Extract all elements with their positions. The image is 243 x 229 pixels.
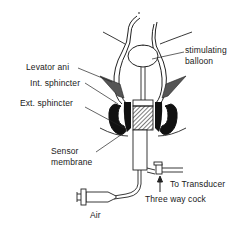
label-air: Air (90, 211, 101, 220)
anorectal-manometry-diagram (0, 0, 243, 229)
label-stimulating-balloon-line2: balloon (185, 57, 213, 66)
label-sensor-membrane-line2: membrane (51, 158, 92, 167)
pelvic-floor-lines (103, 32, 192, 44)
diagram-canvas: stimulating balloon Levator ani Int. sph… (0, 0, 243, 229)
label-to-transducer: To Transducer (170, 180, 225, 189)
air-tube (114, 170, 141, 199)
label-ext-sphincter: Ext. sphincter (20, 99, 73, 108)
levator-ani-muscle (100, 76, 186, 98)
label-levator-ani: Levator ani (26, 63, 69, 72)
three-way-cock (147, 162, 183, 174)
label-int-sphincter: Int. sphincter (30, 79, 80, 88)
syringe-icon (77, 189, 116, 205)
sensor-probe (133, 100, 153, 170)
label-three-way-cock: Three way cock (145, 195, 206, 204)
label-stimulating-balloon-line1: stimulating (185, 46, 227, 55)
stimulating-balloon (128, 45, 158, 67)
arrow-up-icon (158, 176, 163, 192)
catheter-shaft (141, 67, 145, 100)
label-sensor-membrane-line1: Sensor (51, 147, 79, 156)
